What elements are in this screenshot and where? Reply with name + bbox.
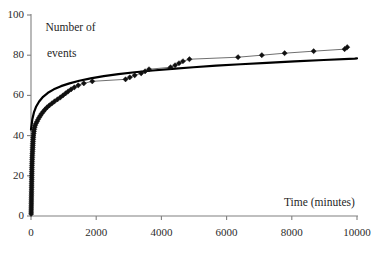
chart-figure: 020406080100 0200040006000800010000 Numb…	[0, 0, 379, 259]
data-point-marker	[187, 57, 192, 62]
y-axis-title-line1: Number of	[46, 21, 96, 33]
data-point-marker	[282, 51, 287, 56]
data-point-marker	[235, 55, 240, 60]
y-axis-tick-label: 80	[0, 49, 24, 60]
x-axis-tick-label: 2000	[66, 227, 126, 238]
x-axis-tick-label: 6000	[197, 227, 257, 238]
y-axis-tick-label: 100	[0, 9, 24, 20]
y-axis-title-line2: events	[34, 47, 96, 60]
y-axis-tick-label: 40	[0, 130, 24, 141]
x-axis-title: Time (minutes)	[284, 196, 355, 209]
x-axis-tick-label: 10000	[327, 227, 379, 238]
y-axis-tick-label: 20	[0, 170, 24, 181]
x-axis-tick-label: 0	[1, 227, 61, 238]
y-axis-tick-label: 0	[0, 210, 24, 221]
data-point-marker	[311, 49, 316, 54]
x-axis-tick-label: 8000	[262, 227, 322, 238]
x-axis-tick-label: 4000	[131, 227, 191, 238]
y-axis-title: Number of events	[34, 8, 96, 86]
data-point-marker	[259, 53, 264, 58]
y-axis-tick-label: 60	[0, 89, 24, 100]
